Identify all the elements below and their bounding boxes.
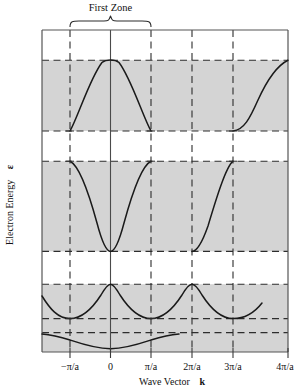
y-axis-title-symbol: ε bbox=[4, 164, 15, 169]
xtick-label-pi-a: π/a bbox=[145, 361, 158, 372]
xtick-label-zero: 0 bbox=[108, 361, 113, 372]
allowed-band-regions bbox=[42, 60, 288, 352]
y-axis-title-text: Electron Energy bbox=[4, 180, 15, 245]
allowed-band-3 bbox=[42, 161, 288, 251]
first-zone-label: First Zone bbox=[89, 2, 133, 13]
band-structure-figure: −π/a 0 π/a 2π/a 3π/a 4π/a Wave Vector k … bbox=[0, 0, 304, 391]
x-axis-title-symbol: k bbox=[199, 376, 205, 387]
allowed-band-2 bbox=[42, 284, 288, 339]
allowed-band-4 bbox=[42, 60, 288, 131]
band-structure-svg: −π/a 0 π/a 2π/a 3π/a 4π/a Wave Vector k … bbox=[0, 0, 304, 391]
xtick-label-4pi-a: 4π/a bbox=[276, 361, 294, 372]
xtick-label-3pi-a: 3π/a bbox=[224, 361, 242, 372]
xtick-label-2pi-a: 2π/a bbox=[183, 361, 201, 372]
xtick-label-minus-pi-a: −π/a bbox=[61, 361, 79, 372]
x-axis-title-text: Wave Vector bbox=[139, 376, 191, 387]
